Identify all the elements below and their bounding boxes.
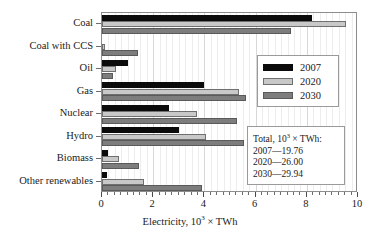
x-tick-minor (120, 192, 121, 195)
gridline-minor (217, 13, 218, 191)
x-tick-minor (139, 192, 140, 195)
legend: 200720202030 (257, 55, 339, 107)
x-tick-minor (299, 192, 300, 195)
y-axis-tick (96, 68, 101, 69)
bar (102, 44, 105, 50)
bar (102, 95, 246, 101)
gridline-minor (352, 13, 353, 191)
legend-swatch-icon (263, 64, 293, 71)
y-axis-label-other-renewables: Other renewables (0, 175, 93, 186)
x-tick-minor (274, 192, 275, 195)
x-tick-minor (191, 192, 192, 195)
gridline-minor (211, 13, 212, 191)
x-tick-minor (197, 192, 198, 195)
y-axis-tick (96, 113, 101, 114)
y-axis-tick (96, 91, 101, 92)
bar (102, 15, 312, 21)
exponent: 3 (201, 214, 205, 222)
x-tick-minor (159, 192, 160, 195)
x-tick-minor (133, 192, 134, 195)
x-tick-minor (114, 192, 115, 195)
x-tick-minor (171, 192, 172, 195)
x-axis-title: Electricity, 103 × TWh (0, 214, 380, 227)
y-axis-tick (96, 46, 101, 47)
bar (102, 89, 239, 95)
gridline-minor (224, 13, 225, 191)
x-tick-minor (242, 192, 243, 195)
x-tick-minor (312, 192, 313, 195)
x-tick-major (255, 192, 256, 197)
bar (102, 134, 206, 140)
x-tick-minor (325, 192, 326, 195)
x-tick-minor (216, 192, 217, 195)
x-tick-minor (127, 192, 128, 195)
legend-item-2030[interactable]: 2030 (263, 88, 333, 102)
totals-line: 2007—19.76 (253, 146, 339, 158)
x-tick-minor (280, 192, 281, 195)
gridline-minor (185, 13, 186, 191)
x-tick-minor (178, 192, 179, 195)
gridline-minor (192, 13, 193, 191)
x-tick-minor (235, 192, 236, 195)
x-tick-major (306, 192, 307, 197)
bar (102, 172, 107, 178)
y-axis-label-coal: Coal (0, 17, 93, 28)
bar (102, 105, 169, 111)
x-tick-minor (319, 192, 320, 195)
x-tick-minor (261, 192, 262, 195)
y-axis-label-gas: Gas (0, 85, 93, 96)
totals-line: 2030—29.94 (253, 169, 339, 181)
y-axis-tick (96, 181, 101, 182)
x-tick-label: 2 (137, 198, 167, 210)
gridline-minor (179, 13, 180, 191)
gridline-minor (243, 13, 244, 191)
x-tick-minor (267, 192, 268, 195)
x-tick-minor (293, 192, 294, 195)
bar (102, 179, 144, 185)
x-tick-major (357, 192, 358, 197)
gridline-minor (140, 13, 141, 191)
bar (102, 66, 116, 72)
legend-swatch-icon (263, 92, 293, 99)
y-axis-tick (96, 23, 101, 24)
x-tick-major (152, 192, 153, 197)
bar (102, 140, 244, 146)
x-tick-major (101, 192, 102, 197)
y-axis-label-biomass: Biomass (0, 152, 93, 163)
bar (102, 60, 128, 66)
x-tick-minor (351, 192, 352, 195)
x-tick-minor (107, 192, 108, 195)
totals-line: 2020—26.00 (253, 157, 339, 169)
bar (102, 50, 138, 56)
legend-label: 2030 (300, 90, 321, 101)
x-tick-minor (184, 192, 185, 195)
y-axis-tick (96, 158, 101, 159)
gridline-minor (345, 13, 346, 191)
legend-label: 2007 (300, 62, 321, 73)
gridline-minor (198, 13, 199, 191)
bar (102, 111, 197, 117)
legend-item-2020[interactable]: 2020 (263, 74, 333, 88)
gridline-major (153, 13, 154, 191)
gridline-minor (230, 13, 231, 191)
legend-item-2007[interactable]: 2007 (263, 60, 333, 74)
legend-swatch-icon (263, 78, 293, 85)
bar (102, 150, 108, 156)
gridline-minor (236, 13, 237, 191)
gridline-minor (160, 13, 161, 191)
x-tick-minor (146, 192, 147, 195)
gridline-major (204, 13, 205, 191)
bar (102, 156, 119, 162)
y-axis-tick (96, 136, 101, 137)
x-tick-minor (338, 192, 339, 195)
x-tick-label: 0 (86, 198, 116, 210)
bar (102, 118, 237, 124)
gridline-minor (166, 13, 167, 191)
bar (102, 73, 113, 79)
x-tick-label: 10 (342, 198, 372, 210)
legend-label: 2020 (300, 76, 321, 87)
exponent: 3 (287, 132, 290, 139)
y-axis-label-coal-with-ccs: Coal with CCS (0, 40, 93, 51)
x-tick-minor (248, 192, 249, 195)
bar (102, 28, 291, 34)
